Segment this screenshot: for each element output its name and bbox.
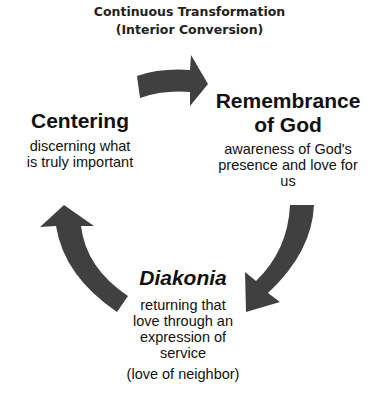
node-remembrance-title: Remembrance of God (200, 89, 376, 137)
arrow-down-left-icon (245, 205, 314, 312)
desc-line: love through an (113, 313, 253, 329)
title-line: Remembrance (200, 89, 376, 113)
node-centering-desc: discerning what is truly important (10, 138, 150, 170)
desc-line: discerning what (10, 138, 150, 154)
node-diakonia-desc: returning that love through an expressio… (113, 297, 253, 361)
arrow-right-icon (137, 55, 208, 106)
desc-line: service (113, 345, 253, 361)
desc-line: presence and love for (205, 157, 371, 173)
desc-line: is truly important (10, 154, 150, 170)
node-diakonia-note: (love of neighbor) (103, 366, 263, 382)
title-line: of God (200, 113, 376, 137)
desc-line: returning that (113, 297, 253, 313)
desc-line: expression of (113, 329, 253, 345)
node-centering-title: Centering (10, 109, 150, 133)
node-remembrance-desc: awareness of God's presence and love for… (205, 141, 371, 189)
arrow-up-icon (40, 205, 128, 312)
node-diakonia-title: Diakonia (113, 266, 253, 290)
desc-line: awareness of God's (205, 141, 371, 157)
desc-line: us (205, 173, 371, 189)
